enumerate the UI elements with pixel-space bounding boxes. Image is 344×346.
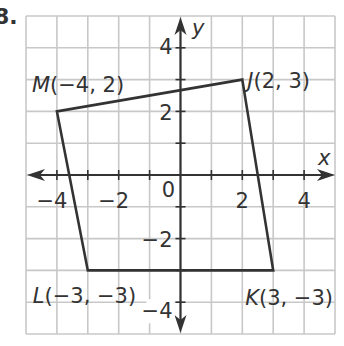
x-tick-label: −2 <box>98 189 129 213</box>
vertex-labels: J(2, 3)K(3, −3)L(−3, −3)M(−4, 2) <box>32 69 333 311</box>
coordinate-plane: 8. −4−202442−2−4 x y J(2, 3)K(3, −3)L(−3… <box>0 0 344 346</box>
y-tick-label: 4 <box>159 35 172 59</box>
x-tick-label: −4 <box>36 189 67 213</box>
vertex-label-J: J(2, 3) <box>243 69 310 93</box>
vertex-label-L: L(−3, −3) <box>33 284 136 308</box>
vertex-label-M: M(−4, 2) <box>32 73 124 97</box>
x-tick-label: 2 <box>236 189 249 213</box>
y-tick-label: −2 <box>142 228 173 252</box>
y-tick-label: −4 <box>142 299 173 323</box>
x-axis-label: x <box>317 146 331 170</box>
problem-number: 8. <box>0 4 18 29</box>
x-tick-label: 4 <box>297 189 310 213</box>
coordinate-plane-figure: 8. −4−202442−2−4 x y J(2, 3)K(3, −3)L(−3… <box>0 0 344 346</box>
y-axis-label: y <box>191 16 205 40</box>
x-tick-label: 0 <box>162 178 175 202</box>
y-tick-label: 2 <box>159 101 172 125</box>
vertex-label-K: K(3, −3) <box>245 286 333 310</box>
